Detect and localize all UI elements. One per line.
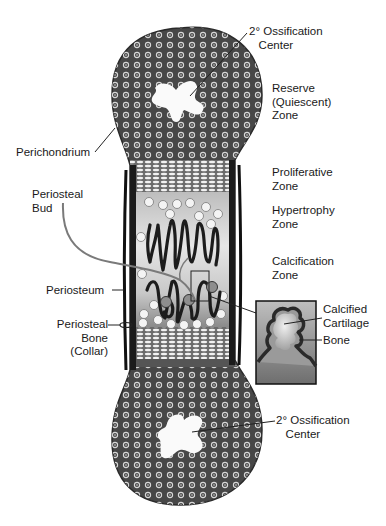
- label-periosteum: Periosteum: [46, 284, 104, 298]
- label-periosteal-bone-collar: Periosteal Bone (Collar): [54, 318, 108, 359]
- label-periosteal-bud: Periosteal Bud: [32, 188, 83, 215]
- label-secondary-ossification-bottom: 2° Ossification Center: [276, 414, 350, 441]
- label-calcified-cartilage: Calcified Cartilage: [323, 303, 369, 330]
- periosteum-right: [229, 160, 235, 365]
- label-hypertrophy-zone: Hypertrophy Zone: [272, 204, 335, 231]
- label-secondary-ossification-top: 2° Ossification Center: [249, 25, 323, 52]
- label-calcification-zone: Calcification Zone: [272, 255, 334, 282]
- calcified-cartilage-inset: [256, 301, 322, 384]
- label-proliferative-zone: Proliferative Zone: [272, 166, 333, 193]
- label-bone: Bone: [323, 334, 350, 348]
- label-reserve-zone: Reserve (Quiescent) Zone: [272, 82, 331, 123]
- label-perichondrium: Perichondrium: [16, 146, 90, 160]
